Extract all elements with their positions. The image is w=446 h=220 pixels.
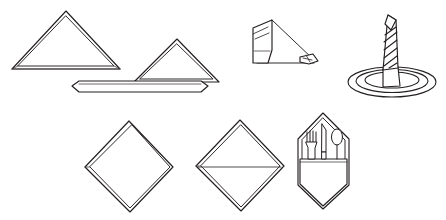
creased-diamond-outer-face [196, 120, 284, 211]
knife-icon [322, 124, 326, 159]
knife-handle [322, 152, 326, 159]
roll-tail-upper-edge [272, 20, 314, 60]
folded-band [72, 81, 208, 92]
fold-diamond-creased [196, 120, 284, 211]
fold-roll-and-point [253, 20, 318, 64]
spoon-bowl [332, 129, 343, 145]
knife-blade [322, 124, 326, 152]
napkin-folding-diagram-sheet [0, 0, 446, 220]
fold-diamond [85, 121, 173, 212]
napkin-folding-illustration [0, 0, 446, 220]
pocket-front-panel [300, 159, 347, 206]
diamond-outer-face [85, 121, 173, 212]
fork-neck-and-handle [306, 142, 317, 159]
band-triangle-outer-face [134, 39, 219, 82]
fold-triangle [12, 11, 120, 69]
fold-candle-on-plate [348, 15, 436, 97]
rolled-tube-body [253, 20, 272, 63]
triangle-outer-face [12, 11, 120, 69]
fold-cutlery-pocket [298, 113, 349, 209]
